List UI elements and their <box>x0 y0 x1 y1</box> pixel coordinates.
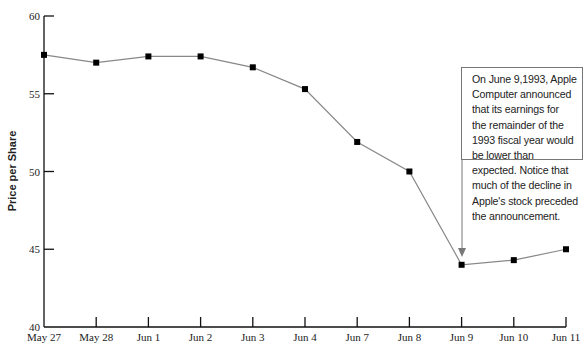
annotation-line: be lower than <box>472 148 582 163</box>
annotation-line: 1993 fiscal year would <box>472 133 582 148</box>
annotation-line: On June 9,1993, Apple <box>472 72 582 87</box>
x-tick-label: Jun 3 <box>241 331 265 343</box>
data-point-marker <box>41 52 47 58</box>
x-tick-label: Jun 11 <box>552 331 581 343</box>
annotation-line: Computer announced <box>472 87 582 102</box>
data-point-marker <box>145 53 151 59</box>
arrow-head-icon <box>458 248 466 257</box>
x-tick-label: May 28 <box>79 331 113 343</box>
data-point-marker <box>250 64 256 70</box>
data-point-marker <box>406 169 412 175</box>
annotation-box: On June 9,1993, AppleComputer announcedt… <box>461 67 583 160</box>
callout-arrow <box>458 160 466 257</box>
data-point-marker <box>459 262 465 268</box>
y-tick-label: 60 <box>29 10 41 22</box>
x-tick-label: Jun 7 <box>345 331 369 343</box>
annotation-line: the remainder of the <box>472 118 582 133</box>
data-point-marker <box>354 139 360 145</box>
annotation-line: that its earnings for <box>472 102 582 117</box>
data-point-marker <box>511 257 517 263</box>
data-point-marker <box>198 53 204 59</box>
data-point-marker <box>563 246 569 252</box>
data-point-marker <box>302 86 308 92</box>
annotation-line: much of the decline in <box>472 178 582 193</box>
x-tick-label: Jun 4 <box>293 331 317 343</box>
x-tick-label: Jun 8 <box>398 331 422 343</box>
y-axis-label: Price per Share <box>6 131 18 212</box>
annotation-line: Apple's stock preceded <box>472 194 582 209</box>
y-tick-label: 50 <box>29 166 41 178</box>
data-point-marker <box>93 60 99 66</box>
x-tick-label: May 27 <box>27 331 61 343</box>
annotation-line: the announcement. <box>472 209 582 224</box>
x-tick-label: Jun 10 <box>499 331 529 343</box>
y-tick-label: 45 <box>29 243 41 255</box>
x-tick-label: Jun 9 <box>450 331 474 343</box>
x-tick-label: Jun 2 <box>189 331 213 343</box>
y-tick-label: 55 <box>29 88 41 100</box>
x-tick-label: Jun 1 <box>137 331 161 343</box>
annotation-line: expected. Notice that <box>472 163 582 178</box>
